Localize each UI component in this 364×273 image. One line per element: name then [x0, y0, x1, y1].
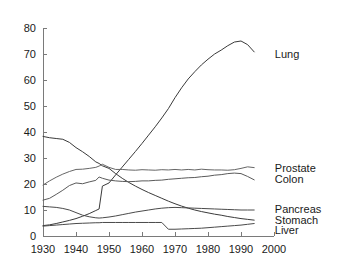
x-tick-label: 1990 — [229, 243, 253, 255]
series-line-colon — [43, 173, 254, 200]
y-tick-label: 0 — [30, 230, 36, 242]
series-label-pancreas: Pancreas — [275, 203, 322, 215]
series-line-stomach — [43, 136, 254, 220]
y-tick-label: 60 — [24, 74, 36, 86]
y-tick-label: 10 — [24, 204, 36, 216]
line-chart-figure: 01020304050607080 1930194019501960197019… — [0, 0, 364, 273]
series-label-lung: Lung — [275, 48, 299, 60]
x-tick-label: 1960 — [130, 243, 154, 255]
x-axis-ticks: 19301940195019601970198019902000 — [31, 232, 286, 255]
series-line-liver — [43, 222, 254, 229]
y-tick-label: 30 — [24, 152, 36, 164]
series-line-lung — [43, 41, 254, 226]
series-label-colon: Colon — [275, 173, 304, 185]
series-label-liver: Liver — [275, 224, 299, 236]
chart-canvas: 01020304050607080 1930194019501960197019… — [0, 0, 364, 273]
y-tick-label: 70 — [24, 48, 36, 60]
x-tick-label: 1980 — [196, 243, 220, 255]
y-tick-label: 20 — [24, 178, 36, 190]
x-tick-label: 2000 — [262, 243, 286, 255]
x-tick-label: 1930 — [31, 243, 55, 255]
x-tick-label: 1970 — [163, 243, 187, 255]
x-tick-label: 1950 — [97, 243, 121, 255]
y-tick-label: 40 — [24, 126, 36, 138]
y-tick-label: 50 — [24, 100, 36, 112]
series-labels-group: LungStomachProstateColonPancreasLiver — [275, 48, 322, 236]
series-line-pancreas — [43, 206, 254, 218]
y-axis-ticks: 01020304050607080 — [24, 22, 47, 242]
data-series-group — [43, 41, 254, 229]
y-tick-label: 80 — [24, 22, 36, 34]
x-tick-label: 1940 — [64, 243, 88, 255]
